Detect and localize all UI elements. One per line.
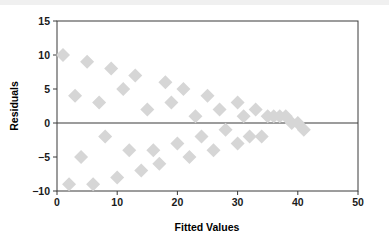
residual-scatter-plot: 01020304050 −10−5051015 Fitted Values Re… bbox=[0, 0, 389, 239]
y-axis-title: Residuals bbox=[8, 81, 20, 131]
data-point-marker bbox=[158, 75, 172, 89]
y-tick-label: 5 bbox=[44, 83, 50, 95]
data-point-marker bbox=[164, 96, 178, 110]
x-axis-title: Fitted Values bbox=[175, 221, 240, 233]
data-point-marker bbox=[243, 130, 257, 144]
data-point-marker bbox=[219, 123, 233, 137]
data-point-marker bbox=[152, 157, 166, 171]
data-point-marker bbox=[194, 130, 208, 144]
data-point-marker bbox=[62, 177, 76, 191]
data-point-marker bbox=[146, 143, 160, 157]
data-point-marker bbox=[92, 96, 106, 110]
data-point-marker bbox=[110, 170, 124, 184]
y-tick-label: 15 bbox=[38, 15, 50, 27]
data-point-marker bbox=[182, 150, 196, 164]
data-point-group bbox=[56, 48, 311, 191]
y-axis-tick-labels: −10−5051015 bbox=[32, 15, 50, 197]
data-point-marker bbox=[134, 164, 148, 178]
data-point-marker bbox=[116, 82, 130, 96]
data-point-marker bbox=[56, 48, 70, 62]
data-point-marker bbox=[170, 136, 184, 150]
data-point-marker bbox=[255, 130, 269, 144]
data-point-marker bbox=[237, 109, 251, 123]
data-point-marker bbox=[249, 102, 263, 116]
x-tick-label: 10 bbox=[111, 196, 123, 208]
data-point-marker bbox=[213, 102, 227, 116]
data-point-marker bbox=[207, 143, 221, 157]
x-tick-label: 50 bbox=[352, 196, 364, 208]
data-point-marker bbox=[104, 62, 118, 76]
data-point-marker bbox=[201, 89, 215, 103]
data-point-marker bbox=[80, 55, 94, 69]
y-tick-label: 0 bbox=[44, 117, 50, 129]
x-tick-label: 40 bbox=[292, 196, 304, 208]
y-tick-label: −10 bbox=[32, 185, 50, 197]
data-point-marker bbox=[140, 102, 154, 116]
data-point-marker bbox=[122, 143, 136, 157]
data-point-marker bbox=[86, 177, 100, 191]
x-tick-label: 30 bbox=[232, 196, 244, 208]
data-point-marker bbox=[128, 68, 142, 82]
data-point-marker bbox=[68, 89, 82, 103]
data-point-marker bbox=[188, 109, 202, 123]
data-point-marker bbox=[231, 96, 245, 110]
data-point-marker bbox=[176, 82, 190, 96]
data-point-marker bbox=[74, 150, 88, 164]
data-point-marker bbox=[231, 136, 245, 150]
x-tick-label: 0 bbox=[54, 196, 60, 208]
x-axis-tick-labels: 01020304050 bbox=[54, 196, 364, 208]
y-tick-label: −5 bbox=[38, 151, 50, 163]
x-tick-label: 20 bbox=[172, 196, 184, 208]
y-tick-label: 10 bbox=[38, 49, 50, 61]
chart-canvas: 01020304050 −10−5051015 Fitted Values Re… bbox=[0, 0, 389, 239]
data-point-marker bbox=[98, 130, 112, 144]
